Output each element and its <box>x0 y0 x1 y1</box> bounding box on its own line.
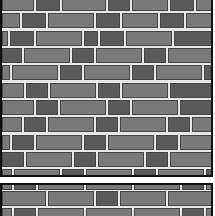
brick-row <box>2 183 211 190</box>
brick-row <box>2 117 211 132</box>
brick <box>126 31 172 46</box>
brick <box>96 117 118 132</box>
brick <box>60 100 106 115</box>
brick <box>180 100 213 115</box>
brick <box>192 117 213 132</box>
brick <box>26 83 48 98</box>
brick <box>2 208 12 216</box>
brick <box>36 100 58 115</box>
brick <box>60 65 82 80</box>
brick <box>122 13 158 28</box>
top-brick-wall-panel <box>0 0 213 177</box>
brick-row <box>2 100 211 115</box>
brick <box>48 117 94 132</box>
brick-row <box>2 48 211 63</box>
brick <box>182 183 204 190</box>
brick <box>2 135 10 150</box>
brick <box>38 208 84 216</box>
brick-row <box>2 83 211 98</box>
brick <box>144 48 166 63</box>
brick <box>98 83 120 98</box>
brick <box>170 83 213 98</box>
brick <box>160 13 184 28</box>
brick <box>186 13 213 28</box>
brick-row <box>2 191 211 206</box>
brick <box>132 65 154 80</box>
brick <box>12 135 34 150</box>
brick-row <box>2 13 211 28</box>
brick <box>84 65 130 80</box>
bottom-brick-wall-panel <box>0 183 213 216</box>
brick <box>168 48 213 63</box>
brick <box>2 0 34 11</box>
brick <box>134 169 156 177</box>
brick-row <box>2 208 211 216</box>
brick <box>84 31 98 46</box>
brick <box>2 83 24 98</box>
brick <box>168 117 190 132</box>
brick <box>48 13 94 28</box>
brick <box>120 191 166 206</box>
brick <box>86 169 132 177</box>
brick <box>2 48 22 63</box>
brick <box>2 65 10 80</box>
brick <box>132 0 168 11</box>
brick <box>182 208 204 216</box>
brick <box>36 135 82 150</box>
brick <box>12 65 58 80</box>
brick <box>134 183 180 190</box>
brick <box>168 191 213 206</box>
brick <box>108 135 154 150</box>
brick <box>72 48 94 63</box>
brick <box>2 191 46 206</box>
brick-row <box>2 65 211 80</box>
brick <box>96 13 120 28</box>
brick-row <box>2 152 211 167</box>
brick <box>158 169 204 177</box>
brick <box>2 117 22 132</box>
brick <box>50 83 96 98</box>
brick <box>96 48 142 63</box>
brick <box>206 183 213 190</box>
brick <box>156 65 202 80</box>
brick <box>206 208 213 216</box>
brick-row <box>2 0 211 11</box>
brick <box>84 135 106 150</box>
brick <box>100 31 124 46</box>
brick <box>22 13 46 28</box>
brick <box>36 31 82 46</box>
brick <box>156 135 178 150</box>
brick <box>122 83 168 98</box>
brick <box>2 13 20 28</box>
brick <box>174 31 213 46</box>
brick <box>108 100 130 115</box>
brick <box>146 152 168 167</box>
brick <box>180 135 213 150</box>
brick <box>24 117 46 132</box>
brick <box>26 152 72 167</box>
brick <box>86 208 132 216</box>
brick <box>10 31 34 46</box>
brick <box>48 191 94 206</box>
brick <box>134 208 180 216</box>
brick <box>98 152 144 167</box>
brick <box>24 48 70 63</box>
brick <box>2 169 12 177</box>
brick <box>62 169 84 177</box>
brick <box>14 169 60 177</box>
brick <box>14 208 36 216</box>
brick <box>204 65 213 80</box>
brick <box>170 152 213 167</box>
brick <box>96 191 118 206</box>
brick <box>2 31 8 46</box>
brick <box>14 183 36 190</box>
brick-row <box>2 31 211 46</box>
brick <box>2 152 24 167</box>
brick <box>38 183 84 190</box>
brick <box>170 0 194 11</box>
brick <box>132 100 178 115</box>
brick <box>120 117 166 132</box>
brick <box>74 152 96 167</box>
brick <box>206 169 213 177</box>
brick <box>2 100 34 115</box>
